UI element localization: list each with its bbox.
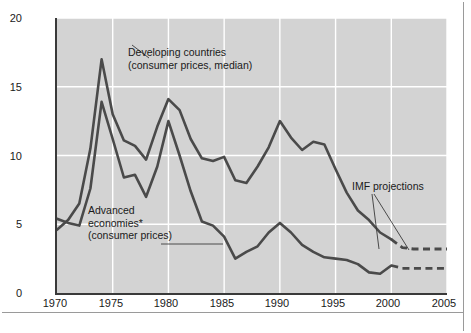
y-tick-10: 10 <box>0 150 22 162</box>
annotation-advanced: Advanced economies* (consumer prices) <box>88 204 172 242</box>
annotation-advanced-line2: economies* <box>88 217 172 230</box>
x-tick-2005: 2005 <box>419 297 469 309</box>
x-tick-1980: 1980 <box>141 297 191 309</box>
series-projection-0 <box>391 239 447 249</box>
series-projection-1 <box>391 266 447 269</box>
y-tick-0: 0 <box>0 287 22 299</box>
leader-imf-upper <box>372 194 379 249</box>
x-tick-1985: 1985 <box>197 297 247 309</box>
bottom-rule <box>2 312 464 313</box>
annotation-developing: Developing countries (consumer prices, m… <box>128 46 252 71</box>
right-rule <box>463 2 464 331</box>
y-tick-5: 5 <box>0 218 22 230</box>
y-tick-15: 15 <box>0 81 22 93</box>
x-tick-1995: 1995 <box>308 297 358 309</box>
x-tick-1990: 1990 <box>252 297 302 309</box>
x-tick-1975: 1975 <box>86 297 136 309</box>
annotation-advanced-line3: (consumer prices) <box>88 229 172 242</box>
y-tick-20: 20 <box>0 12 22 24</box>
annotation-imf: IMF projections <box>352 180 424 193</box>
x-tick-1970: 1970 <box>30 297 80 309</box>
annotation-imf-line1: IMF projections <box>352 180 424 193</box>
chart-figure: Percent inflation 20 15 10 5 0 1970 1975… <box>0 0 471 333</box>
x-tick-2000: 2000 <box>363 297 413 309</box>
annotation-developing-line2: (consumer prices, median) <box>128 59 252 72</box>
annotation-advanced-line1: Advanced <box>88 204 172 217</box>
annotation-developing-line1: Developing countries <box>128 46 252 59</box>
